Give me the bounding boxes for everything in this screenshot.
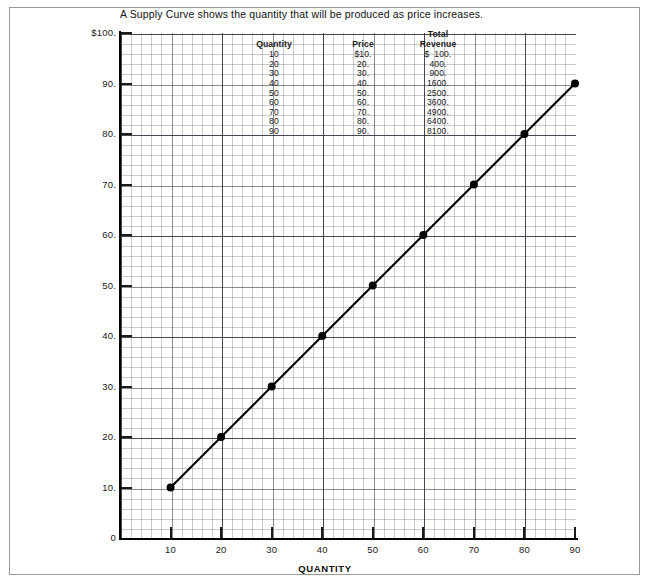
chart-title: A Supply Curve shows the quantity that w… [120,8,590,20]
y-axis-tick [121,133,132,135]
header-revenue-line1: Total [428,29,448,39]
x-axis-tick-label: 60 [403,544,443,555]
y-axis-tick-label: 90. [56,78,116,89]
y-axis-tick-label: 80. [56,128,116,139]
table-header-row: Quantity Price Total Revenue [222,30,476,50]
x-axis-tick-label: 10 [151,544,191,555]
y-axis-tick-label: $100. [56,27,116,38]
x-axis-tick-label: 90 [555,544,595,555]
table-header-total-revenue: Total Revenue [400,30,476,50]
cell-total-revenue: 8100. [400,127,476,137]
y-axis-tick-label: 70. [56,179,116,190]
y-axis-tick-label: 10. [56,482,116,493]
x-axis-tick [220,527,222,538]
y-axis-tick [121,285,132,287]
y-axis-tick-label: 40. [56,330,116,341]
x-axis-tick [523,527,525,538]
y-axis-tick [121,83,132,85]
y-axis-tick-label: 30. [56,381,116,392]
y-axis-tick-label: 50. [56,280,116,291]
x-axis-tick-label: 30 [252,544,292,555]
header-price-label: Price [352,39,374,49]
table-head: Quantity Price Total Revenue [222,30,476,50]
x-axis-title: QUANTITY [0,563,650,574]
y-axis-tick [121,436,132,438]
x-axis-tick [170,527,172,538]
y-axis-tick-label: 0 [56,532,116,543]
x-axis-tick-label: 40 [302,544,342,555]
x-axis-tick [422,527,424,538]
table-row: 9090.8100. [222,127,476,137]
table-header-quantity: Quantity [222,30,326,50]
x-axis-tick-label: 70 [454,544,494,555]
x-axis-tick-label: 20 [201,544,241,555]
y-axis-tick-label: 20. [56,431,116,442]
y-axis-tick [121,386,132,388]
y-axis-tick [121,32,132,34]
x-axis-tick [473,527,475,538]
x-axis-tick [574,527,576,538]
cell-price: 90. [326,127,400,137]
y-axis-tick-label: 60. [56,229,116,240]
header-quantity-label: Quantity [256,39,292,49]
chart-page: A Supply Curve shows the quantity that w… [0,0,650,588]
x-axis-tick [372,527,374,538]
y-axis-tick [121,335,132,337]
x-axis-tick [271,527,273,538]
supply-data-table: Quantity Price Total Revenue 10$10.$ 100… [222,30,476,137]
y-axis-tick [121,487,132,489]
table-body: 10$10.$ 100.2020.400.3030.900.4040.1600.… [222,50,476,136]
y-axis-tick [121,234,132,236]
x-axis-tick-label: 80 [504,544,544,555]
header-revenue-line2: Revenue [420,39,457,49]
cell-quantity: 90 [222,127,326,137]
table-header-price: Price [326,30,400,50]
data-table: Quantity Price Total Revenue 10$10.$ 100… [222,30,476,137]
x-axis-tick-label: 50 [353,544,393,555]
x-axis-tick [321,527,323,538]
y-axis-tick [121,184,132,186]
x-axis-line [119,538,578,540]
